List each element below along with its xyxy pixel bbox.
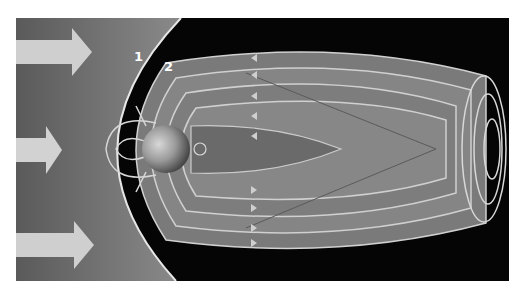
magnetosphere-figure: 1 2 [16, 18, 509, 281]
magnetosphere-diagram [16, 18, 509, 281]
label-magnetopause: 2 [164, 59, 173, 74]
earth [142, 125, 190, 173]
label-bow-shock: 1 [134, 49, 143, 64]
